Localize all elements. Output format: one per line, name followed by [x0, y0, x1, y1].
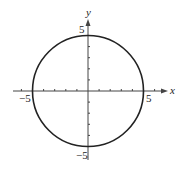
y-neg-label: −5 [76, 149, 88, 161]
y-axis-label: y [85, 6, 91, 18]
x-neg-label: −5 [19, 92, 31, 104]
x-axis-arrow-icon [161, 89, 168, 94]
circle-diagram: y x 5 −5 −5 5 [0, 0, 182, 169]
diagram-canvas: y x 5 −5 −5 5 [0, 0, 182, 169]
x-axis-label: x [169, 84, 175, 96]
y-pos-label: 5 [79, 23, 85, 35]
y-axis-arrow-icon [86, 19, 91, 26]
x-pos-label: 5 [146, 92, 152, 104]
